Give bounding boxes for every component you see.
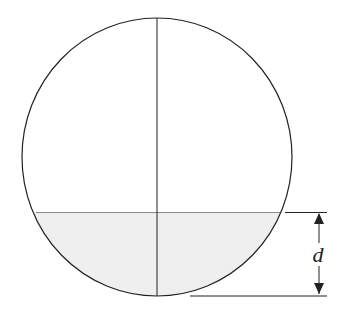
- pipe-cross-section-diagram: d: [0, 0, 344, 317]
- depth-label: d: [313, 242, 325, 267]
